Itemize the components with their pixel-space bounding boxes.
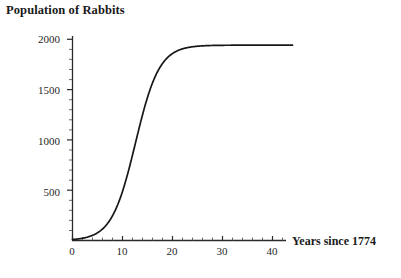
- logistic-growth-curve: [73, 45, 293, 239]
- plot-area: [0, 0, 401, 278]
- x-axis-minor-ticks: [83, 238, 283, 241]
- axis-lines: [72, 36, 286, 241]
- chart-figure: Population of Rabbits Years since 1774 2…: [0, 0, 401, 278]
- y-axis-major-ticks: [67, 39, 72, 190]
